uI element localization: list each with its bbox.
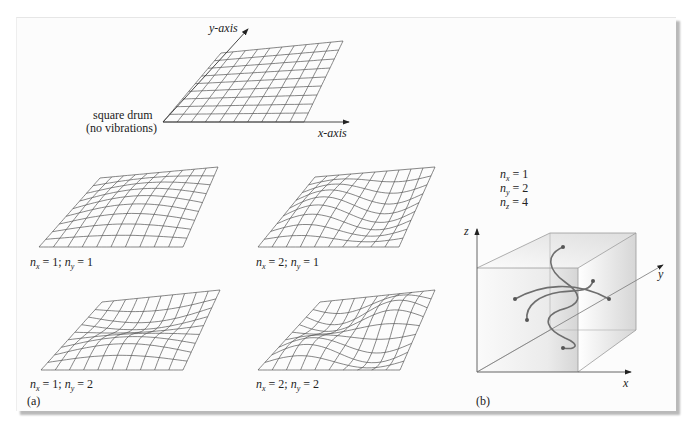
mode-grid-nx2-ny2 — [258, 290, 435, 370]
quantum-number-nz: nz = 4 — [500, 196, 528, 213]
z-axis-label: z — [464, 225, 469, 238]
mode-grid-nx1-ny2 — [41, 290, 220, 370]
mode-label-nx2-ny2: nx = 2; ny = 2 — [256, 378, 319, 395]
figure-drawing — [0, 0, 692, 428]
x-axis-label-3d: x — [623, 377, 628, 390]
y-axis-label-3d: y — [658, 268, 663, 281]
mode-grid-nx2-ny1 — [258, 167, 435, 247]
mode-label-nx1-ny1: nx = 1; ny = 1 — [30, 256, 93, 273]
no-vibrations-caption: (no vibrations) — [86, 122, 157, 135]
mode-grid-nx1-ny1 — [39, 167, 218, 247]
cube-box — [477, 233, 636, 372]
y-axis-label: y-axis — [209, 22, 238, 35]
y-axis-arrow — [163, 29, 248, 122]
panel-b-label: (b) — [476, 395, 490, 408]
square-drum-grid — [163, 41, 343, 122]
mode-label-nx2-ny1: nx = 2; ny = 1 — [256, 256, 319, 273]
x-axis-label: x-axis — [318, 127, 347, 140]
panel-a-label: (a) — [27, 395, 40, 408]
mode-label-nx1-ny2: nx = 1; ny = 2 — [30, 378, 93, 395]
